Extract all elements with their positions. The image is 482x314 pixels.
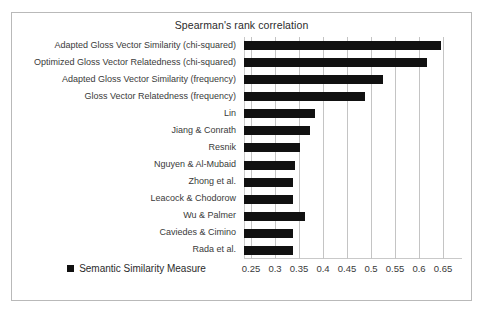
- tick-label: 0.45: [338, 263, 357, 274]
- chart-legend: Semantic Similarity Measure: [34, 263, 239, 274]
- category-label: Rada et al.: [192, 244, 236, 255]
- tick-label: 0.65: [434, 263, 453, 274]
- category-label: Adapted Gloss Vector Similarity (chi-squ…: [54, 40, 236, 51]
- chart-frame: Spearman's rank correlation Adapted Glos…: [11, 12, 472, 301]
- plot-area: [244, 37, 462, 259]
- bar-row: [244, 37, 462, 54]
- bar: [244, 126, 310, 135]
- category-label: Optimized Gloss Vector Relatedness (chi-…: [34, 57, 236, 68]
- tick-label: 0.5: [364, 263, 377, 274]
- bar: [244, 195, 293, 204]
- bar-row: [244, 157, 462, 174]
- tick-label: 0.55: [386, 263, 405, 274]
- bar-row: [244, 225, 462, 242]
- bar: [244, 109, 315, 118]
- value-axis-tick-labels: 0.250.30.350.40.450.50.550.60.65: [244, 263, 462, 279]
- category-label: Adapted Gloss Vector Similarity (frequen…: [62, 74, 236, 85]
- bar: [244, 41, 441, 50]
- bar-row: [244, 122, 462, 139]
- tick-label: 0.3: [268, 263, 281, 274]
- tick-label: 0.6: [412, 263, 425, 274]
- tick-label: 0.4: [316, 263, 329, 274]
- tick-label: 0.25: [242, 263, 261, 274]
- category-label: Leacock & Chodorow: [150, 193, 236, 204]
- bar-row: [244, 208, 462, 225]
- bar-row: [244, 191, 462, 208]
- bar: [244, 75, 383, 84]
- bar-row: [244, 139, 462, 156]
- chart-title: Spearman's rank correlation: [12, 19, 471, 31]
- category-axis-labels: Adapted Gloss Vector Similarity (chi-squ…: [12, 37, 240, 259]
- category-label: Wu & Palmer: [183, 210, 236, 221]
- bar-row: [244, 105, 462, 122]
- bar-row: [244, 71, 462, 88]
- category-label: Caviedes & Cimino: [159, 227, 236, 238]
- bar: [244, 212, 305, 221]
- legend-swatch-icon: [67, 265, 74, 272]
- bar-row: [244, 88, 462, 105]
- legend-label: Semantic Similarity Measure: [79, 263, 206, 274]
- bar: [244, 178, 293, 187]
- bar: [244, 229, 293, 238]
- tick-label: 0.35: [290, 263, 309, 274]
- bar: [244, 161, 295, 170]
- bar: [244, 246, 293, 255]
- category-label: Resnik: [208, 142, 236, 153]
- bar-row: [244, 54, 462, 71]
- category-label: Jiang & Conrath: [171, 125, 236, 136]
- bar-row: [244, 174, 462, 191]
- category-label: Zhong et al.: [188, 176, 236, 187]
- category-label: Lin: [224, 108, 236, 119]
- category-label: Nguyen & Al-Mubaid: [154, 159, 236, 170]
- category-label: Gloss Vector Relatedness (frequency): [84, 91, 236, 102]
- bar: [244, 143, 300, 152]
- bar: [244, 58, 427, 67]
- bar: [244, 92, 365, 101]
- bar-row: [244, 242, 462, 259]
